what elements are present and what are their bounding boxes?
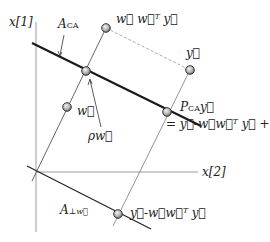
node-y-minus-wwty — [114, 210, 123, 219]
label-rho-w: ρw⃗ — [88, 130, 113, 142]
line-a-ca — [32, 43, 201, 126]
label-p-ca-y: PCAy⃗ — [180, 101, 214, 113]
axis-label-x1: x[1] — [9, 16, 33, 28]
node-w-wt-y — [102, 24, 111, 33]
line-y-minus-proj-to-y — [113, 70, 190, 226]
label-p-ca-y-formula: = y⃗-w⃗w⃗ᵀ y⃗ + ρw⃗ — [166, 118, 270, 130]
axis-label-x2: x[2] — [202, 166, 226, 178]
label-y-minus-wwty: y⃗-w⃗w⃗ᵀ y⃗ — [130, 207, 206, 219]
pointer-rho-w-head — [88, 79, 92, 85]
label-y: y⃗ — [186, 47, 200, 59]
label-a-perp-w: A⊥w⃗ — [60, 204, 88, 216]
node-w — [63, 103, 72, 112]
node-rho-w — [82, 67, 91, 76]
dashed-line-wwty-to-y — [106, 28, 190, 70]
label-w: w⃗ — [77, 105, 94, 117]
node-p-ca-y — [163, 108, 172, 117]
node-y — [186, 66, 195, 75]
label-w-wt-y: w⃗ w⃗ᵀ y⃗ — [116, 13, 178, 25]
label-a-ca: ACA — [58, 18, 79, 30]
